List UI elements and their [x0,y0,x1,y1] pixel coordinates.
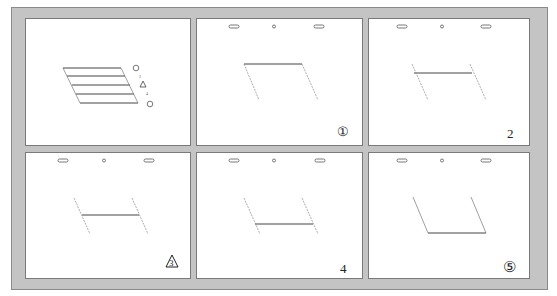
step-label: 3 [169,258,174,268]
center-hole-icon [273,25,276,28]
mark-5-icon [133,65,139,71]
step-label: 2 [507,127,514,140]
warning-triangle-icon [140,81,146,87]
step-4-diagram [197,153,364,280]
panel-step-3: 3 [25,152,191,279]
step-label: ⑤ [503,260,516,275]
step-label: 4 [340,262,347,275]
panel-step-4: 4 [196,152,363,279]
panel-overview: 2 4 [25,18,191,146]
panel-step-2: 2 [368,18,530,146]
mark-1-icon [147,101,153,107]
svg-text:2: 2 [139,74,141,79]
stacked-parallelogram-diagram: 2 4 [26,19,192,147]
hinge-left-icon [229,25,239,28]
hinge-right-icon [314,25,324,28]
panel-step-1: ① [196,18,363,146]
step-label: ① [337,125,349,138]
svg-text:4: 4 [146,91,148,96]
step-3-diagram: 3 [26,153,192,280]
panel-step-5: ⑤ [368,152,530,279]
